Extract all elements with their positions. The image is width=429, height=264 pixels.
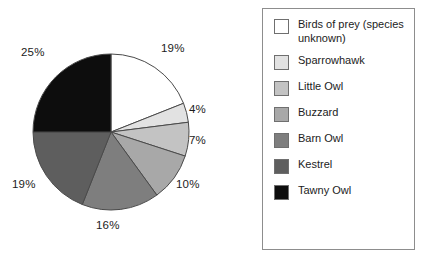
pie-slice-percentage: 19% — [12, 179, 36, 191]
pie-chart-svg — [0, 0, 258, 264]
pie-chart-figure: 19%4%7%10%16%19%25% Birds of prey (speci… — [0, 0, 429, 264]
legend-item-label: Barn Owl — [298, 132, 343, 146]
legend-item-label: Buzzard — [298, 106, 338, 120]
pie-slice-percentage: 25% — [21, 47, 45, 59]
legend-item-list: Birds of prey (species unknown)Sparrowha… — [274, 18, 408, 210]
pie-slice-percentage: 19% — [161, 43, 185, 55]
legend-item: Kestrel — [274, 158, 408, 175]
legend-item: Barn Owl — [274, 132, 408, 149]
legend-item: Little Owl — [274, 80, 408, 97]
legend-swatch-birds-of-prey — [274, 19, 289, 34]
legend-item-label: Sparrowhawk — [298, 54, 365, 68]
chart-legend: Birds of prey (species unknown)Sparrowha… — [262, 8, 415, 250]
pie-slice-percentage: 7% — [189, 135, 206, 147]
pie-chart-plot-area: 19%4%7%10%16%19%25% — [0, 0, 258, 264]
legend-swatch-little-owl — [274, 81, 289, 96]
pie-slice-percentage: 4% — [189, 104, 206, 116]
legend-item-label: Tawny Owl — [298, 184, 351, 198]
legend-swatch-sparrowhawk — [274, 55, 289, 70]
legend-item: Birds of prey (species unknown) — [274, 18, 408, 45]
legend-swatch-barn-owl — [274, 133, 289, 148]
legend-item: Tawny Owl — [274, 184, 408, 201]
legend-item-label: Birds of prey (species unknown) — [298, 18, 408, 45]
legend-item-label: Kestrel — [298, 158, 332, 172]
pie-slice — [33, 54, 111, 132]
pie-slice-percentage: 10% — [176, 179, 200, 191]
legend-item-label: Little Owl — [298, 80, 343, 94]
legend-item: Sparrowhawk — [274, 54, 408, 71]
legend-item: Buzzard — [274, 106, 408, 123]
legend-swatch-buzzard — [274, 107, 289, 122]
legend-swatch-kestrel — [274, 159, 289, 174]
pie-slice-percentage: 16% — [96, 220, 120, 232]
legend-swatch-tawny-owl — [274, 185, 289, 200]
